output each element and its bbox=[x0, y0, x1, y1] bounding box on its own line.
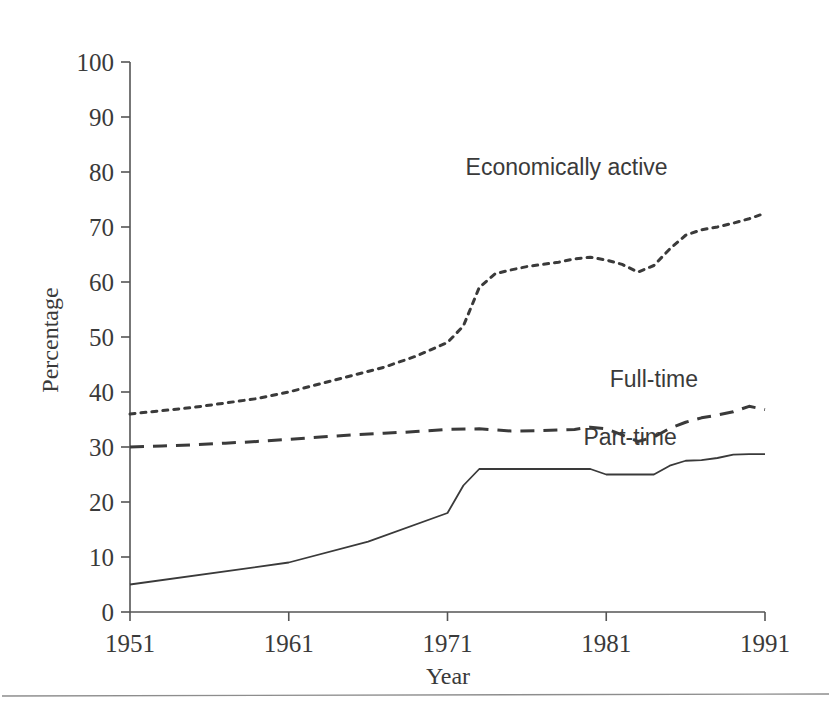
y-axis-tick-label: 0 bbox=[102, 599, 115, 626]
y-axis-tick-label: 90 bbox=[89, 104, 114, 131]
y-axis-tick-label: 10 bbox=[89, 544, 114, 571]
x-axis-tick-labels: 19511961197119811991 bbox=[105, 630, 790, 657]
y-axis-tick-label: 50 bbox=[89, 324, 114, 351]
chart-series-group bbox=[130, 213, 765, 584]
x-axis-tick-label: 1991 bbox=[740, 630, 790, 657]
y-axis-tick-label: 20 bbox=[89, 489, 114, 516]
x-axis-title: Year bbox=[426, 663, 470, 689]
chart-axes bbox=[121, 62, 765, 621]
y-axis-tick-label: 60 bbox=[89, 269, 114, 296]
series-annotation-labels: Economically activeFull-timePart-time bbox=[466, 154, 698, 451]
line-chart: 0102030405060708090100 19511961197119811… bbox=[0, 0, 831, 717]
y-axis-tick-label: 70 bbox=[89, 214, 114, 241]
axis-spines bbox=[130, 62, 765, 612]
series-line-part-time bbox=[130, 454, 765, 584]
y-axis-tick-label: 100 bbox=[77, 49, 115, 76]
y-axis-tick-labels: 0102030405060708090100 bbox=[77, 49, 115, 626]
x-axis-tick-label: 1961 bbox=[264, 630, 314, 657]
bottom-divider-rule bbox=[2, 694, 829, 696]
series-label-economically-active: Economically active bbox=[466, 154, 668, 180]
chart-figure: 0102030405060708090100 19511961197119811… bbox=[0, 0, 831, 717]
y-axis-tick-label: 80 bbox=[89, 159, 114, 186]
series-label-full-time: Full-time bbox=[610, 366, 698, 392]
x-axis-tick-label: 1971 bbox=[423, 630, 473, 657]
y-axis-tick-label: 30 bbox=[89, 434, 114, 461]
x-axis-tick-label: 1951 bbox=[105, 630, 155, 657]
x-axis-tick-label: 1981 bbox=[581, 630, 631, 657]
y-axis-tick-label: 40 bbox=[89, 379, 114, 406]
series-label-part-time: Part-time bbox=[583, 424, 676, 450]
y-axis-title: Percentage bbox=[37, 287, 63, 392]
